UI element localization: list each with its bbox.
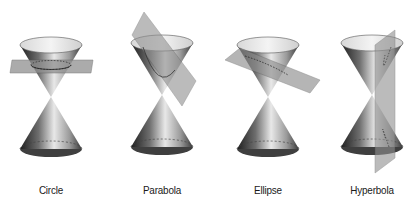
- circle-label: Circle: [11, 184, 92, 196]
- hyperbola-cutting-plane: [375, 30, 395, 173]
- conic-sections-diagram: [0, 0, 420, 210]
- hyperbola-figure: [341, 30, 403, 173]
- ellipse-figure: [225, 37, 320, 157]
- ellipse-label: Ellipse: [228, 184, 309, 196]
- parabola-figure: [131, 12, 196, 155]
- hyperbola-label: Hyperbola: [332, 184, 413, 196]
- circle-figure: [10, 37, 93, 157]
- circle-cutting-plane: [10, 60, 93, 73]
- parabola-label: Parabola: [122, 184, 203, 196]
